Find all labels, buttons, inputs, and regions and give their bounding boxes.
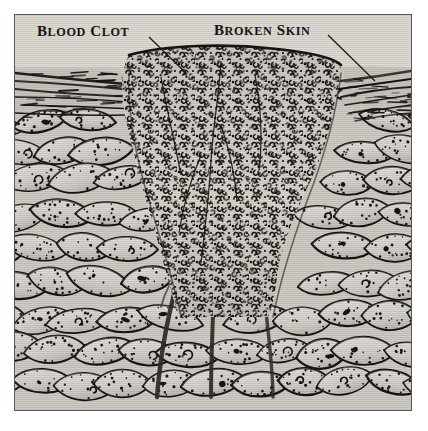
label-blood-clot: BLOOD CLOT xyxy=(37,24,129,39)
illustration-panel: BLOOD CLOT BROKEN SKIN xyxy=(14,14,412,411)
label-blood-clot-rest: LOOD xyxy=(48,25,86,39)
anatomical-illustration xyxy=(15,15,411,410)
label-broken-skin: BROKEN SKIN xyxy=(214,23,310,38)
label-broken-skin-rest: ROKEN xyxy=(225,24,273,38)
label-blood-clot-rest2: LOT xyxy=(102,25,130,39)
label-blood-clot-cap2: C xyxy=(90,23,101,39)
label-blood-clot-cap: B xyxy=(37,23,48,39)
label-broken-skin-cap2: S xyxy=(277,22,286,38)
label-broken-skin-cap: B xyxy=(214,22,225,38)
wound-healing-figure: BLOOD CLOT BROKEN SKIN xyxy=(0,0,428,431)
label-broken-skin-rest2: KIN xyxy=(286,24,311,38)
